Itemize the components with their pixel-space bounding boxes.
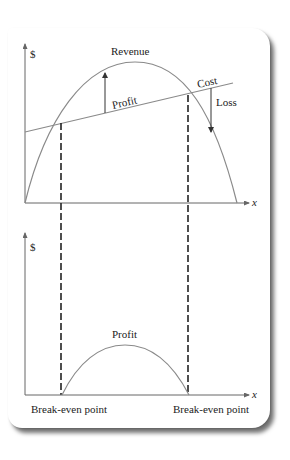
top-y-axis-label: $ bbox=[30, 48, 36, 60]
bottom-x-axis-label: x bbox=[251, 388, 257, 400]
profit-label-bottom: Profit bbox=[112, 328, 137, 340]
top-chart: $ x Revenue Cost Profit Loss bbox=[25, 44, 257, 208]
break-even-label-left: Break-even point bbox=[31, 403, 107, 415]
break-even-label-right: Break-even point bbox=[173, 403, 249, 415]
profit-label-top: Profit bbox=[111, 94, 138, 111]
profit-curve bbox=[62, 345, 189, 395]
bottom-y-axis-label: $ bbox=[30, 241, 36, 253]
bottom-chart: $ x Profit Break-even point Break-even p… bbox=[25, 233, 257, 415]
loss-label: Loss bbox=[216, 96, 237, 108]
top-x-axis-label: x bbox=[251, 196, 257, 208]
break-even-diagram: $ x Revenue Cost Profit Loss $ x Profit … bbox=[0, 0, 290, 460]
revenue-label: Revenue bbox=[111, 45, 150, 57]
